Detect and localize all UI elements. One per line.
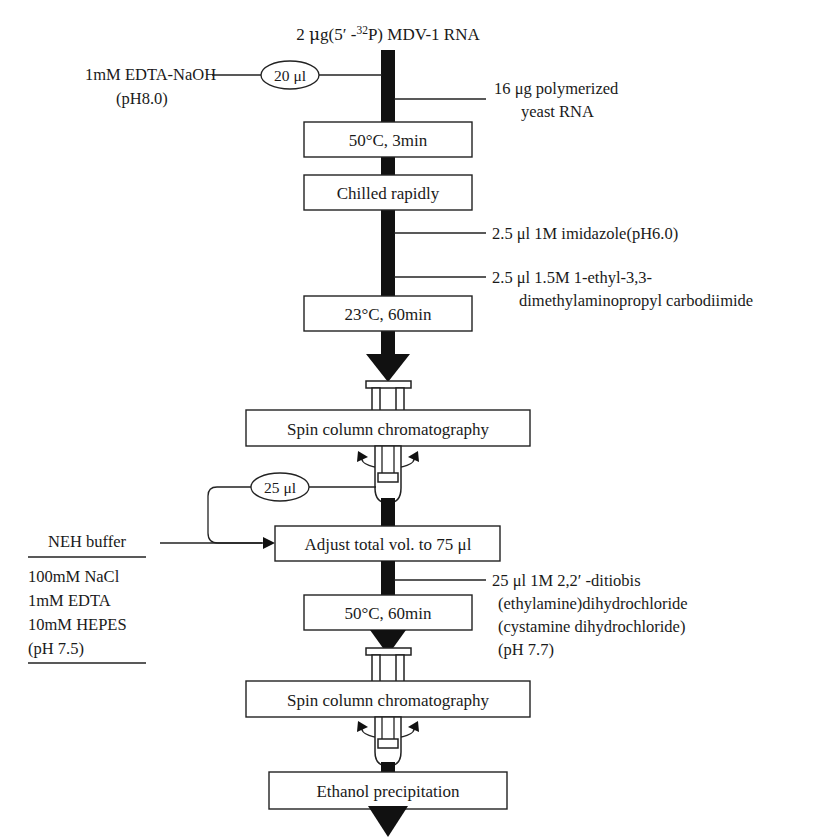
arrow-head-final-output xyxy=(368,806,408,837)
neh-buffer-title: NEH buffer xyxy=(48,532,127,551)
step-label-incubate-23: 23°C, 60min xyxy=(344,305,432,324)
neh-component-1: 1mM EDTA xyxy=(28,591,111,610)
flowchart-canvas: 2 μg(5′ -32P) MDV-1 RNA 20 μl 1mM EDTA-N… xyxy=(0,0,815,837)
reagent-cystamine-line-3: (cystamine dihydrochloride) xyxy=(498,617,685,636)
diagram-title: 2 μg(5′ -32P) MDV-1 RNA xyxy=(296,24,480,44)
reagent-edta-line-1: 1mM EDTA-NaOH xyxy=(85,65,216,84)
tube-collar-2 xyxy=(378,739,398,748)
reagent-cystamine-line-1: 25 μl 1M 2,2′ -ditiobis xyxy=(492,571,641,590)
spin-column-tube-right-1 xyxy=(396,388,404,412)
title-superscript: 32 xyxy=(356,24,368,36)
reagent-edta-line-2: (pH8.0) xyxy=(116,89,168,108)
tube-collar-1 xyxy=(378,473,398,482)
reagent-yeast-rna-line-1: 16 μg polymerized xyxy=(494,79,619,98)
spin-column-tube-left-1 xyxy=(372,388,380,412)
neh-component-3: (pH 7.5) xyxy=(28,639,84,658)
flowchart-svg: 2 μg(5′ -32P) MDV-1 RNA 20 μl 1mM EDTA-N… xyxy=(0,0,815,837)
spine-segment-1 xyxy=(381,157,395,175)
spine-segment-3 xyxy=(381,330,395,358)
reagent-imidazole-line-1: 2.5 μl 1M imidazole(pH6.0) xyxy=(492,224,678,243)
spine-segment-2 xyxy=(381,208,395,296)
spin-column-tube-right-2 xyxy=(396,655,404,683)
reagent-yeast-rna-line-2: yeast RNA xyxy=(521,102,594,121)
step-label-heat-1: 50°C, 3min xyxy=(349,131,428,150)
spine-segment-top xyxy=(381,50,395,122)
reagent-cystamine-line-2: (ethylamine)dihydrochloride xyxy=(498,594,688,613)
spine-segment-4 xyxy=(381,498,395,528)
volume-label-20ul: 20 μl xyxy=(274,67,306,84)
spin-column-cap-2 xyxy=(366,648,411,655)
centrifuge-tube-icon xyxy=(357,446,419,503)
neh-component-0: 100mM NaCl xyxy=(28,567,120,586)
step-label-heat-2: 50°C, 60min xyxy=(344,604,432,623)
title-lead: 2 xyxy=(296,25,309,44)
reagent-cystamine-line-4: (pH 7.7) xyxy=(498,640,554,659)
spin-column-icon xyxy=(366,648,411,683)
spin-column-tube-left-2 xyxy=(372,655,380,683)
spin-column-cap-1 xyxy=(366,381,411,388)
spin-column-icon xyxy=(366,381,411,412)
title-mu: μ xyxy=(309,24,320,44)
step-label-spin-column-2: Spin column chromatography xyxy=(287,691,490,710)
step-label-ethanol: Ethanol precipitation xyxy=(316,782,460,801)
reagent-carbodiimide-line-2: dimethylaminopropyl carbodiimide xyxy=(519,291,753,310)
step-label-chill: Chilled rapidly xyxy=(337,184,440,203)
arrow-head-neh-to-adjust xyxy=(263,537,275,549)
title-tail: P) MDV-1 RNA xyxy=(368,25,481,44)
arrow-head-to-spin-column-1 xyxy=(366,354,410,382)
reagent-carbodiimide-line-1: 2.5 μl 1.5M 1-ethyl-3,3- xyxy=(492,268,652,287)
step-label-spin-column-1: Spin column chromatography xyxy=(287,420,490,439)
volume-label-25ul: 25 μl xyxy=(264,479,296,496)
step-label-adjust-volume: Adjust total vol. to 75 μl xyxy=(305,535,472,554)
neh-component-2: 10mM HEPES xyxy=(28,615,127,634)
centrifuge-tube-icon xyxy=(357,717,419,766)
title-mid: g(5′ - xyxy=(320,25,357,44)
